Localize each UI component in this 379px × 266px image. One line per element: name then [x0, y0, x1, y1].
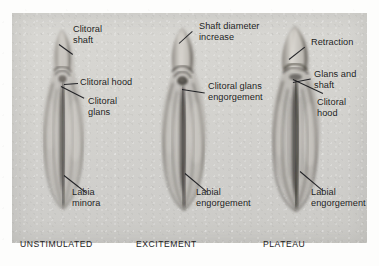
- stage-caption-plateau: PLATEAU: [263, 239, 305, 249]
- anatomical-figure: Clitoral shaft Clitoral hood Clitoral gl…: [0, 0, 379, 266]
- callout-labia-minora: Labia minora: [72, 187, 100, 208]
- callout-retraction: Retraction: [311, 37, 353, 48]
- callout-labial-engorgement-excitement: Labial engorgement: [196, 187, 251, 208]
- callout-clitoral-shaft: Clitoral shaft: [73, 24, 102, 45]
- callout-labial-engorgement-plateau: Labial engorgement: [311, 187, 366, 208]
- photo-plate: Clitoral shaft Clitoral hood Clitoral gl…: [12, 13, 367, 243]
- stage-caption-excitement: EXCITEMENT: [136, 239, 197, 249]
- callout-clitoral-hood-plateau: Clitoral hood: [317, 97, 346, 118]
- callout-glans-and-shaft: Glans and shaft: [314, 69, 356, 90]
- stage-caption-unstimulated: UNSTIMULATED: [20, 239, 93, 249]
- callout-clitoral-hood: Clitoral hood: [80, 77, 132, 88]
- callout-clitoral-glans: Clitoral glans: [88, 96, 117, 117]
